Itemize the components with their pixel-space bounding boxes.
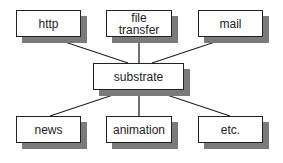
box-animation: animation: [106, 116, 172, 143]
box-news: news: [16, 116, 81, 143]
box-http: http: [16, 10, 81, 37]
box-file-transfer: file transfer: [106, 10, 172, 37]
box-mail: mail: [198, 10, 263, 37]
box-etc: etc.: [198, 116, 263, 143]
box-substrate: substrate: [93, 63, 184, 90]
